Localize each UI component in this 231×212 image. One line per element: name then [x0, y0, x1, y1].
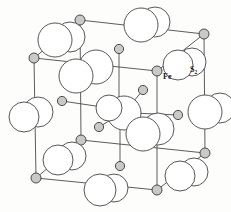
fe-edge-right-mid [173, 110, 182, 119]
s2-pair-mid-left-back [59, 50, 113, 93]
fe-corner-front-top-right [152, 66, 162, 76]
fe-edge-top-mid [114, 44, 123, 53]
sulfur-sphere [96, 95, 122, 121]
sulfur-sphere [126, 117, 160, 151]
fe-corner-back-bottom-right [200, 148, 210, 158]
sulfur-sphere [124, 8, 158, 42]
s2-pair-upper-mid [124, 7, 170, 42]
sulfur-sphere [84, 174, 116, 206]
s2-pair-right-edge [188, 93, 231, 129]
fe-edge-bottom-mid [115, 161, 124, 170]
fe-corner-front-top-left [29, 53, 39, 63]
cube-edge [204, 34, 205, 153]
fe-inner-lower-left [94, 122, 103, 131]
fe-inner-upper-right [138, 85, 147, 94]
fe-edge-left-mid [57, 96, 66, 105]
sulfur-sphere [9, 102, 39, 132]
structure-diagram: FeS2 [0, 0, 231, 212]
s2-pair-bottom-mid [84, 174, 128, 206]
sulfur-sphere [165, 161, 195, 191]
s2-pair-lower-left [43, 142, 86, 175]
sulfur-sphere [188, 95, 222, 129]
sulfur-sphere [43, 145, 73, 175]
fe-corner-back-top-right [199, 29, 209, 39]
fe-corner-front-bottom-right [152, 185, 162, 195]
fe-corner-front-bottom-left [31, 173, 41, 183]
s2-pair-upper-left [38, 22, 85, 57]
s2-label-subscript: 2 [195, 69, 198, 75]
s2-pair-left-edge [9, 97, 53, 132]
atom-group [9, 7, 231, 206]
sulfur-sphere [59, 59, 93, 93]
crystal-structure-figure: FeS2 [0, 0, 231, 212]
s2-pair-lower-right [165, 158, 208, 191]
sulfur-sphere [38, 23, 72, 57]
fe-label: Fe [163, 72, 172, 81]
